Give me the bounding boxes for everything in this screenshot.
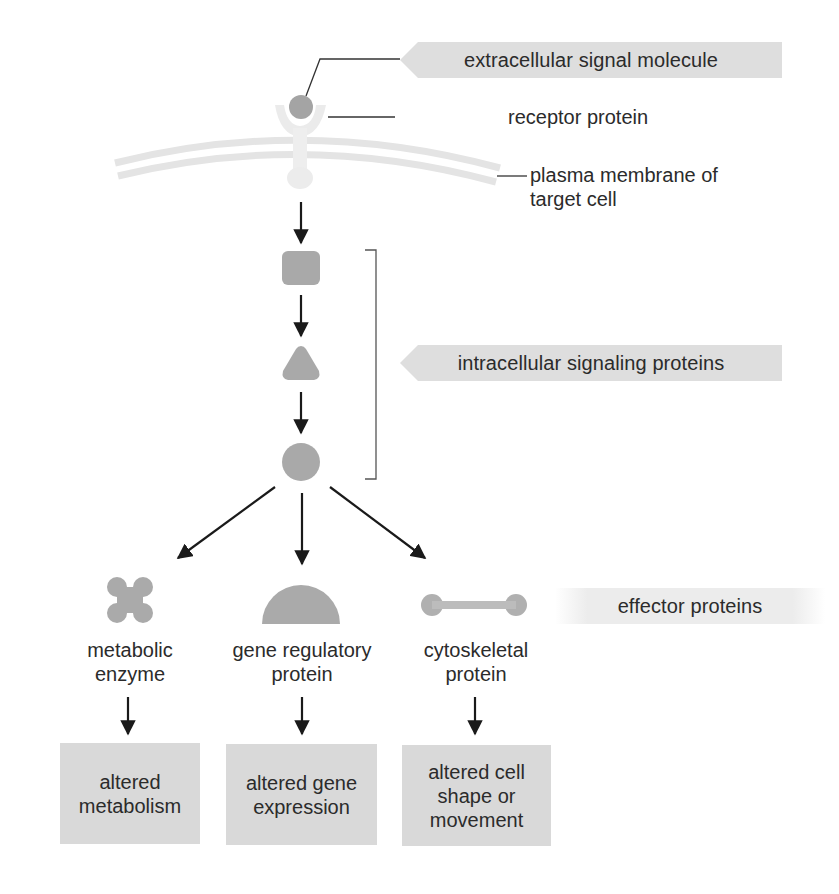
tag-extracellular-signal-molecule: extracellular signal molecule	[400, 42, 782, 78]
outcome-line: altered gene	[246, 771, 357, 795]
signaling-protein-triangle-icon	[283, 346, 320, 380]
label-line: metabolic	[60, 638, 200, 662]
tag-text: intracellular signaling proteins	[458, 352, 725, 375]
outcome-line: altered	[79, 770, 181, 794]
label-receptor-protein: receptor protein	[508, 105, 648, 129]
outcome-line: movement	[428, 808, 525, 832]
signal-molecule-icon	[289, 95, 313, 119]
cytoskeletal-protein-icon	[421, 594, 527, 616]
label-plasma-membrane: plasma membrane of target cell	[530, 163, 718, 211]
signaling-protein-square-icon	[282, 251, 320, 285]
effector-label-metabolic-enzyme: metabolic enzyme	[60, 638, 200, 686]
effector-label-gene-regulatory-protein: gene regulatory protein	[210, 638, 394, 686]
tag-text: extracellular signal molecule	[464, 49, 718, 72]
outcome-box-altered-metabolism: altered metabolism	[60, 743, 200, 844]
outcome-line: metabolism	[79, 794, 181, 818]
signaling-protein-circle-icon	[282, 443, 320, 481]
label-line: protein	[402, 662, 550, 686]
tag-effector-proteins: effector proteins	[555, 588, 825, 624]
arrow-branch-left	[178, 487, 275, 558]
label-line: cytoskeletal	[402, 638, 550, 662]
label-line: enzyme	[60, 662, 200, 686]
outcome-box-altered-cell-shape: altered cell shape or movement	[402, 745, 551, 846]
tag-intracellular-signaling-proteins: intracellular signaling proteins	[400, 345, 782, 381]
bracket	[365, 250, 376, 479]
label-line: target cell	[530, 187, 718, 211]
label-line: protein	[210, 662, 394, 686]
outcome-line: shape or	[428, 784, 525, 808]
outcome-box-altered-gene-expression: altered gene expression	[226, 744, 377, 845]
metabolic-enzyme-icon	[107, 577, 153, 623]
arrow-branch-right	[330, 487, 425, 558]
outcome-line: altered cell	[428, 760, 525, 784]
gene-regulatory-protein-icon	[262, 585, 340, 624]
label-line: gene regulatory	[210, 638, 394, 662]
label-line: plasma membrane of	[530, 163, 718, 187]
effector-label-cytoskeletal-protein: cytoskeletal protein	[402, 638, 550, 686]
leader-line-signal	[306, 59, 400, 96]
tag-text: effector proteins	[618, 595, 763, 618]
outcome-line: expression	[246, 795, 357, 819]
